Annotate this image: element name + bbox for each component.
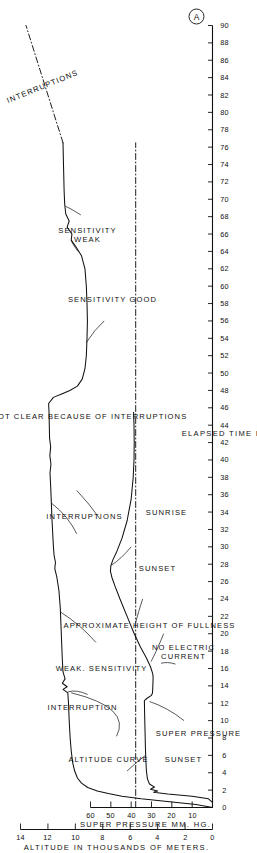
corner-mark: A [189, 9, 204, 24]
x-tick-label: 90 [220, 21, 229, 30]
x-tick-label: 76 [220, 142, 229, 151]
chart-annotation: NO ELECTRICCURRENT [151, 642, 214, 660]
x-tick-label: 64 [220, 246, 229, 255]
y-axis-altitude-title: ALTITUDE IN THOUSANDS OF METERS. [23, 843, 209, 852]
y-pressure-tick-label: 60 [86, 811, 95, 820]
leader-line [161, 662, 175, 664]
x-tick-label: 58 [220, 299, 229, 308]
chart-annotation: SUNSET [138, 564, 175, 573]
chart-annotation: SIGNALS NOT CLEAR BECAUSE OF INTERRUPTIO… [0, 412, 187, 421]
leader-line [111, 546, 131, 564]
y-altitude-tick-label: 12 [43, 833, 52, 842]
chart-annotation: INTERRUPTION [47, 703, 117, 712]
leader-line [67, 691, 87, 694]
leader-line [71, 692, 119, 736]
x-tick-label: 38 [220, 472, 229, 481]
y-altitude-tick-label: 14 [16, 833, 25, 842]
x-tick-label: 14 [220, 681, 229, 690]
x-tick-label: 44 [220, 420, 229, 429]
x-tick-label: 28 [220, 559, 229, 568]
x-tick-label: 2 [222, 785, 226, 794]
x-tick-label: 54 [220, 333, 229, 342]
x-tick-label: 70 [220, 194, 229, 203]
y-altitude-tick-label: 2 [182, 833, 186, 842]
x-tick-label: 42 [220, 438, 229, 447]
chart-annotation: INTERRUPTIONS [46, 511, 122, 520]
x-tick-label: 16 [220, 663, 229, 672]
x-axis-title: ELAPSED TIME IN HOURS [181, 429, 257, 438]
y-pressure-tick-label: 50 [106, 811, 115, 820]
x-tick-label: 12 [220, 698, 229, 707]
x-tick-label: 50 [220, 368, 229, 377]
leader-line [86, 320, 104, 342]
y-axis-pressure-title: SUPER PRESSURE MM. HG. [79, 820, 210, 829]
x-tick-label: 18 [220, 646, 229, 655]
x-tick-label: 22 [220, 611, 229, 620]
figure-page: A 02468101214161820222426283032343638404… [0, 0, 257, 853]
annotation-leaders [51, 206, 183, 771]
x-tick-label: 56 [220, 316, 229, 325]
y-altitude-tick-label: 8 [100, 833, 104, 842]
y-altitude-tick-label: 0 [210, 833, 214, 842]
x-tick-label: 62 [220, 264, 229, 273]
x-tick-label: 24 [220, 594, 229, 603]
chart-annotation: SENSITIVITYWEAK [58, 225, 117, 243]
chart-svg: A [0, 0, 257, 853]
x-tick-label: 48 [220, 385, 229, 394]
x-tick-label: 84 [220, 73, 229, 82]
x-tick-label: 46 [220, 403, 229, 412]
x-tick-label: 40 [220, 455, 229, 464]
y-pressure-tick-label: 10 [187, 811, 196, 820]
leader-line [135, 599, 142, 622]
x-tick-label: 72 [220, 177, 229, 186]
x-tick-label: 26 [220, 577, 229, 586]
x-tick-label: 82 [220, 90, 229, 99]
x-tick-label: 66 [220, 229, 229, 238]
x-tick-label: 0 [222, 803, 226, 812]
leader-line [65, 206, 80, 215]
x-axis-ticks [208, 25, 213, 807]
leader-line [149, 701, 184, 720]
x-tick-label: 52 [220, 351, 229, 360]
chart-annotation: SUNRISE [145, 507, 186, 516]
y-pressure-tick-label: 40 [126, 811, 135, 820]
x-tick-label: 30 [220, 542, 229, 551]
chart-annotation: SENSITIVITY GOOD [67, 294, 156, 303]
x-tick-label: 10 [220, 716, 229, 725]
x-tick-label: 36 [220, 490, 229, 499]
y-pressure-tick-label: 20 [167, 811, 176, 820]
y-altitude-tick-label: 10 [71, 833, 80, 842]
x-tick-label: 34 [220, 507, 229, 516]
x-tick-label: 80 [220, 107, 229, 116]
chart-stage: A 02468101214161820222426283032343638404… [0, 0, 257, 853]
y-altitude-tick-label: 6 [128, 833, 132, 842]
x-tick-label: 78 [220, 125, 229, 134]
svg-text:A: A [193, 11, 199, 21]
x-tick-label: 86 [220, 55, 229, 64]
x-tick-label: 20 [220, 629, 229, 638]
chart-annotation: APPROXIMATE HEIGHT OF FULLNESS [63, 620, 235, 629]
x-tick-label: 74 [220, 160, 229, 169]
x-tick-label: 32 [220, 524, 229, 533]
chart-annotation: SUPER PRESSURE [155, 729, 240, 738]
chart-annotation: ALTITUDE CURVE [68, 755, 148, 764]
series-4 [110, 412, 212, 807]
x-tick-label: 68 [220, 212, 229, 221]
x-tick-label: 6 [222, 750, 226, 759]
chart-annotation: SUNSET [164, 755, 201, 764]
x-tick-label: 88 [220, 38, 229, 47]
x-tick-label: 4 [222, 768, 226, 777]
y-pressure-tick-label: 30 [147, 811, 156, 820]
y-altitude-tick-label: 4 [155, 833, 159, 842]
x-tick-label: 60 [220, 281, 229, 290]
chart-annotation: WEAK. SENSITIVITY [55, 663, 147, 672]
